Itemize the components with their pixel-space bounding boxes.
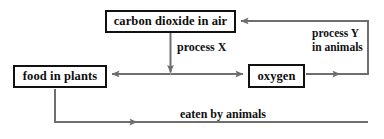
- edge-label-process-y-line1: process Y: [312, 27, 363, 41]
- node-oxygen-label: oxygen: [257, 69, 295, 84]
- node-carbon-dioxide-in-air: carbon dioxide in air: [105, 10, 236, 33]
- node-oxygen: oxygen: [248, 64, 305, 88]
- edge-label-process-y: process Y in animals: [312, 27, 363, 54]
- edge-label-eaten-by-animals: eaten by animals: [180, 107, 266, 122]
- diagram-canvas: carbon dioxide in air food in plants oxy…: [0, 0, 384, 139]
- node-carbon-dioxide-in-air-label: carbon dioxide in air: [114, 14, 228, 29]
- edge-label-process-x: process X: [177, 40, 226, 55]
- edge-label-process-y-line2: in animals: [312, 41, 363, 55]
- node-food-in-plants-label: food in plants: [23, 69, 97, 84]
- node-food-in-plants: food in plants: [13, 65, 107, 88]
